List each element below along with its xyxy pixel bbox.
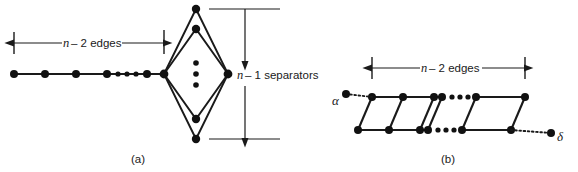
ladder-rung [428,97,442,130]
ladder-rung [420,97,434,130]
chain-node [41,70,49,78]
ladder-top-ellipsis-dot [465,94,470,99]
ladder-top-node [430,93,438,101]
ladder-rung [511,97,525,130]
ladder-bottom-node [416,126,424,134]
ladder-rung [358,97,372,130]
chain-ellipsis-dot [124,71,129,76]
panel-b: n – 2 edges [332,57,564,165]
panel-a: n – 2 edges [10,5,319,165]
chain-ellipsis-dot [133,71,138,76]
panel-b-dimension-n-minus-2-edges: n – 2 edges [372,57,525,79]
ladder-bottom-ellipsis-dot [435,127,440,132]
panel-a-dimension-n-minus-2-edges: n – 2 edges [14,30,164,54]
lens-upper-node [192,5,200,13]
panel-b-alpha-label: α [332,93,340,108]
chain-node [72,70,80,78]
chain-node [143,70,151,78]
ladder-rung [389,97,403,130]
ladder-bottom-node [458,126,466,134]
ladder-top-node [472,93,480,101]
lens-lower-node [192,135,200,143]
panel-b-delta-label: δ [557,129,564,144]
ladder-top-node [438,93,446,101]
ladder-top-ellipsis-dot [449,94,454,99]
ladder-bottom-node [385,126,393,134]
ladder-bottom-ellipsis-dot [451,127,456,132]
delta-node [547,129,555,137]
panel-a-separator-label-var: n [237,68,243,82]
lens-vertical-ellipsis-dot [193,71,199,77]
panel-b-dimension-label-text: – 2 edges [429,62,480,74]
ladder-bottom-ellipsis-dot [443,127,448,132]
lens-lower-node [192,115,200,123]
panel-a-dimension-label-var: n [63,36,69,50]
chain-node [10,70,18,78]
panel-b-caption: (b) [441,153,455,165]
ladder-top-ellipsis-dot [457,94,462,99]
lens-vertical-ellipsis-dot [193,82,199,88]
alpha-node [342,90,350,98]
delta-dotted-edge [511,130,551,133]
panel-a-separator-label-text: – 1 separators [245,69,319,81]
panel-a-lens-nodes [160,5,233,143]
ladder-top-node [521,93,529,101]
chain-node [103,70,111,78]
panel-a-dimension-label-text: – 2 edges [71,37,122,49]
panel-a-caption: (a) [131,153,145,165]
panel-b-delta-terminal: δ [511,129,564,144]
lens-left-vertex [160,70,169,79]
chain-ellipsis-dot [115,71,120,76]
ladder-bottom-node [354,126,362,134]
panel-a-chain [10,70,164,78]
lens-vertical-ellipsis-dot [193,60,199,66]
panel-b-ladder [354,93,529,134]
ladder-bottom-node [424,126,432,134]
figure-canvas: n – 2 edges [0,0,578,172]
ladder-rung [462,97,476,130]
lens-upper-node [192,25,200,33]
lens-right-vertex [224,70,233,79]
panel-b-alpha-terminal: α [332,90,372,108]
panel-b-dimension-label-var: n [421,61,427,75]
ladder-top-node [399,93,407,101]
